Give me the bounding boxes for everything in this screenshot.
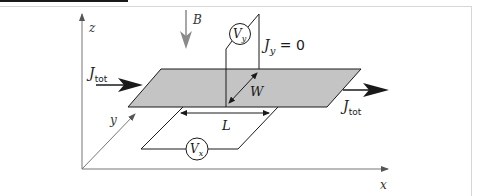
current-out-arrow xyxy=(343,83,389,97)
magnetic-field-arrow xyxy=(180,10,192,49)
z-axis-label: z xyxy=(88,21,96,35)
y-axis xyxy=(82,114,135,169)
current-in-label: Jtot xyxy=(86,65,108,84)
length-label: L xyxy=(221,118,231,133)
width-label: W xyxy=(250,84,265,99)
transverse-current-label: Jy = 0 xyxy=(261,37,305,56)
x-axis-label: x xyxy=(380,178,387,192)
current-out-label: Jtot xyxy=(340,98,362,117)
y-axis-label: y xyxy=(109,113,117,127)
field-label: B xyxy=(192,13,202,27)
longitudinal-voltage-circuit xyxy=(141,107,278,160)
sample-plate xyxy=(128,69,361,107)
hall-effect-diagram: z x y B Jtot Jtot Jy = 0 W L Vy Vx xyxy=(0,0,478,196)
